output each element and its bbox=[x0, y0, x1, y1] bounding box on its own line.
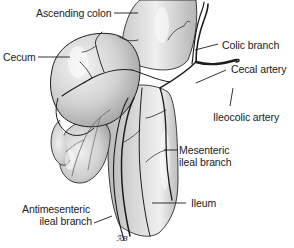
artist-signature: ℛB bbox=[116, 234, 128, 243]
label-ileocolic-artery: Ileocolic artery bbox=[213, 111, 279, 123]
leader-ileocolic-artery bbox=[230, 88, 233, 106]
anatomical-diagram: Ascending colon Cecum Colic branch Cecal… bbox=[0, 0, 294, 248]
label-cecum: Cecum bbox=[3, 51, 36, 63]
label-cecal-artery: Cecal artery bbox=[231, 63, 286, 75]
label-ascending-colon: Ascending colon bbox=[36, 7, 112, 19]
label-antimesenteric-line2: ileal branch bbox=[22, 215, 92, 227]
label-mesenteric-ileal-branch: Mesenteric ileal branch bbox=[179, 144, 232, 168]
leader-colic-branch bbox=[195, 44, 218, 50]
label-mesenteric-line2: ileal branch bbox=[179, 156, 232, 168]
label-ileum: Ileum bbox=[191, 197, 216, 209]
label-mesenteric-line1: Mesenteric bbox=[179, 144, 232, 156]
label-colic-branch: Colic branch bbox=[222, 39, 279, 51]
appendix-shape bbox=[51, 120, 110, 183]
label-antimesenteric-line1: Antimesenteric bbox=[22, 203, 92, 215]
leader-cecal-artery bbox=[196, 70, 226, 83]
label-antimesenteric-ileal-branch: Antimesenteric ileal branch bbox=[22, 203, 92, 227]
leader-antimesenteric-ileal-branch bbox=[94, 216, 112, 223]
